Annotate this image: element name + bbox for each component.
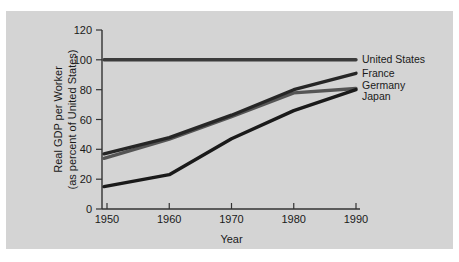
y-tick-label-20: 20 [80, 173, 92, 185]
x-axis-ticks [107, 203, 356, 209]
y-tick-label-40: 40 [80, 143, 92, 155]
y-axis-ticks [96, 30, 102, 209]
y-axis-title-line2: (as percent of United States) [66, 49, 78, 189]
x-tick-label-1990: 1990 [344, 213, 368, 225]
y-tick-label-0: 0 [86, 203, 92, 215]
series-line-japan [104, 90, 356, 187]
x-axis-tick-labels: 1950 1960 1970 1980 1990 [95, 213, 368, 225]
series-line-germany [104, 89, 356, 159]
x-tick-label-1980: 1980 [282, 213, 306, 225]
series-label-united-states: United States [362, 53, 425, 65]
y-axis-title-line1: Real GDP per Worker [52, 66, 64, 173]
y-tick-label-120: 120 [74, 24, 92, 36]
chart-page: 0 20 40 60 80 100 120 1950 1960 1970 198… [0, 0, 459, 262]
y-tick-label-60: 60 [80, 114, 92, 126]
x-tick-label-1970: 1970 [219, 213, 243, 225]
x-axis-title: Year [220, 233, 243, 245]
series-label-japan: Japan [362, 90, 391, 102]
x-tick-label-1950: 1950 [95, 213, 119, 225]
x-tick-label-1960: 1960 [157, 213, 181, 225]
y-tick-label-80: 80 [80, 84, 92, 96]
series-line-france [104, 73, 356, 154]
series-label-france: France [362, 67, 395, 79]
line-chart: 0 20 40 60 80 100 120 1950 1960 1970 198… [0, 0, 459, 262]
